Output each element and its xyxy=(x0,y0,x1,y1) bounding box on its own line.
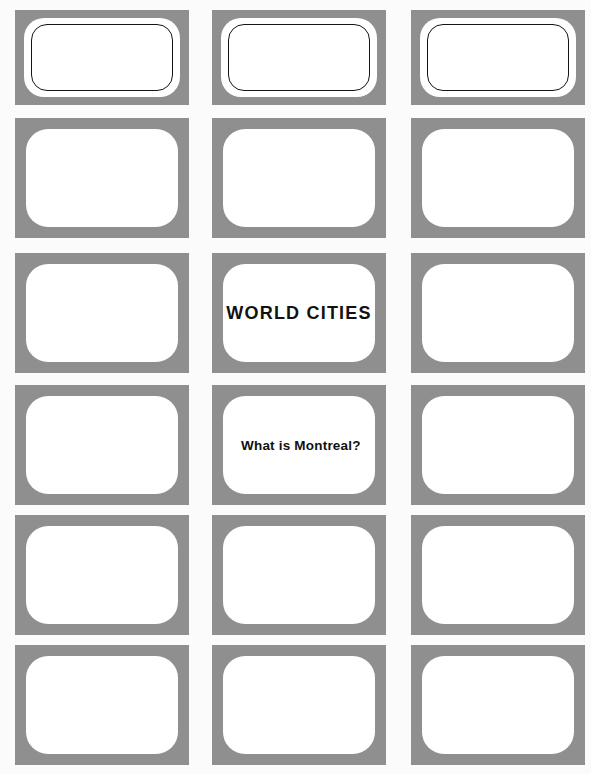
category-outline-box xyxy=(427,24,569,91)
clue-card[interactable] xyxy=(15,385,189,505)
category-header-card[interactable] xyxy=(411,10,585,105)
clue-card[interactable] xyxy=(212,118,386,238)
card-face: What is Montreal? xyxy=(223,396,375,494)
clue-card[interactable] xyxy=(15,645,189,765)
card-face xyxy=(26,129,178,227)
clue-card[interactable] xyxy=(411,515,585,635)
clue-card[interactable] xyxy=(411,118,585,238)
card-face xyxy=(223,526,375,624)
clue-card[interactable] xyxy=(15,515,189,635)
card-face xyxy=(422,396,574,494)
card-face xyxy=(26,526,178,624)
card-face xyxy=(422,129,574,227)
card-face xyxy=(26,656,178,754)
clue-card[interactable] xyxy=(411,645,585,765)
card-face xyxy=(26,396,178,494)
card-face xyxy=(24,18,180,97)
clue-card[interactable]: WORLD CITIES xyxy=(212,253,386,373)
card-face xyxy=(420,18,576,97)
clue-text: What is Montreal? xyxy=(223,396,375,494)
category-title-text: WORLD CITIES xyxy=(223,264,375,362)
card-face xyxy=(422,264,574,362)
game-board: WORLD CITIESWhat is Montreal? xyxy=(0,0,591,774)
card-face xyxy=(422,656,574,754)
clue-card[interactable] xyxy=(212,645,386,765)
category-header-card[interactable] xyxy=(212,10,386,105)
clue-card[interactable]: What is Montreal? xyxy=(212,385,386,505)
clue-card[interactable] xyxy=(15,118,189,238)
clue-card[interactable] xyxy=(411,385,585,505)
category-header-card[interactable] xyxy=(15,10,189,105)
clue-card[interactable] xyxy=(411,253,585,373)
clue-card[interactable] xyxy=(15,253,189,373)
card-face xyxy=(422,526,574,624)
card-face: WORLD CITIES xyxy=(223,264,375,362)
card-face xyxy=(221,18,377,97)
clue-card[interactable] xyxy=(212,515,386,635)
card-face xyxy=(223,656,375,754)
card-face xyxy=(223,129,375,227)
category-outline-box xyxy=(31,24,173,91)
category-outline-box xyxy=(228,24,370,91)
card-face xyxy=(26,264,178,362)
